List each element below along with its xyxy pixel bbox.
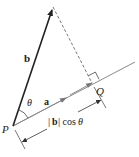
dimension-arrow-right — [78, 100, 101, 112]
label-b: b — [24, 52, 30, 64]
svg-text:|: | — [48, 115, 50, 127]
svg-text:cos: cos — [60, 116, 78, 127]
label-theta: θ — [27, 97, 32, 108]
projection-length-label: | b | cos θ — [48, 115, 83, 127]
theta-arc — [19, 110, 29, 119]
label-a: a — [44, 96, 49, 107]
dimension-tick-p — [15, 130, 25, 149]
projection-diagram: b a θ P Q | b | cos θ — [0, 0, 139, 157]
svg-text:θ: θ — [78, 116, 83, 127]
label-Q: Q — [96, 85, 104, 97]
vector-a-arrow-q — [70, 83, 92, 95]
label-P: P — [1, 123, 9, 135]
dimension-arrow-left — [22, 129, 47, 142]
perpendicular-dashed — [53, 7, 92, 83]
